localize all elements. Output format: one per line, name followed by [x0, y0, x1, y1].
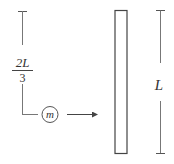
rod-length-label: L [154, 77, 163, 93]
point-mass: m [42, 107, 58, 123]
rod [115, 11, 127, 154]
diagram-canvas: 2L 3 m L [0, 0, 174, 164]
fraction-numerator: 2L [16, 55, 30, 70]
rod-length-dimension: L [154, 11, 165, 154]
fraction-denominator: 3 [20, 71, 26, 85]
mass-label: m [46, 108, 54, 120]
diagram-svg: 2L 3 m L [0, 0, 174, 164]
left-dimension: 2L 3 [12, 11, 38, 115]
